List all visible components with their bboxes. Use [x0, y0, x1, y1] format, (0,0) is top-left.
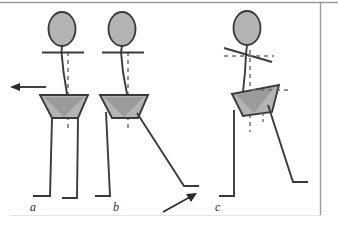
- panel-label-a: a: [30, 200, 36, 215]
- head-a: [49, 12, 76, 46]
- panel-label-c: c: [215, 200, 220, 215]
- diagram-svg: [0, 0, 338, 231]
- head-b: [109, 12, 136, 46]
- head-c: [234, 11, 261, 45]
- panel-label-b: b: [113, 200, 119, 215]
- figure-canvas: a b c: [0, 0, 338, 231]
